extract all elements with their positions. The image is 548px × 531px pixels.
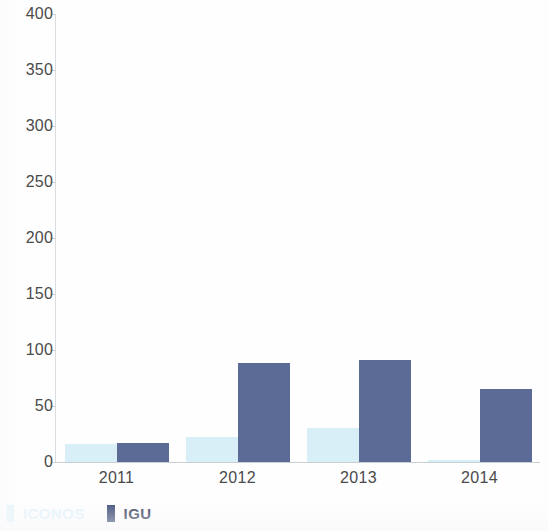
x-tick-label: 2013: [298, 469, 419, 487]
bar-iconos-2011: [65, 444, 117, 462]
bar-group-bars: [298, 14, 419, 462]
legend-swatch-iconos-icon: [6, 505, 14, 522]
legend-label-igu: IGU: [124, 505, 152, 522]
legend-swatch-igu-icon: [107, 505, 115, 522]
y-tick-label: 150: [26, 285, 53, 303]
bar-iconos-2013: [307, 428, 359, 462]
bar-igu-2014: [480, 389, 532, 462]
bar-igu-2013: [359, 360, 411, 462]
bar-igu-2011: [117, 443, 169, 462]
bar-iconos-2014: [428, 460, 480, 462]
y-tick-label: 100: [26, 341, 53, 359]
y-tick-label: 400: [26, 5, 53, 23]
bar-group: 2014: [419, 14, 540, 462]
y-tick-label: 0: [44, 453, 53, 471]
bar-group-bars: [56, 14, 177, 462]
bar-chart: 050100150200250300350400 201120122013201…: [0, 0, 548, 531]
x-axis-line: [55, 462, 540, 463]
y-tick-label: 50: [35, 397, 53, 415]
bar-group: 2013: [298, 14, 419, 462]
bar-groups: 2011201220132014: [56, 14, 540, 462]
legend-label-iconos: ICONOS: [23, 505, 85, 522]
bar-group-bars: [177, 14, 298, 462]
bar-group: 2012: [177, 14, 298, 462]
x-tick-label: 2011: [56, 469, 177, 487]
bar-iconos-2012: [186, 437, 238, 462]
y-tick-label: 350: [26, 61, 53, 79]
bar-igu-2012: [238, 363, 290, 462]
legend-item-igu: IGU: [107, 505, 152, 522]
chart-legend: ICONOS IGU: [6, 505, 151, 522]
x-tick-label: 2012: [177, 469, 298, 487]
bar-group-bars: [419, 14, 540, 462]
x-tick-label: 2014: [419, 469, 540, 487]
y-tick-label: 200: [26, 229, 53, 247]
y-tick-label: 300: [26, 117, 53, 135]
legend-item-iconos: ICONOS: [6, 505, 85, 522]
bar-group: 2011: [56, 14, 177, 462]
y-tick-label: 250: [26, 173, 53, 191]
